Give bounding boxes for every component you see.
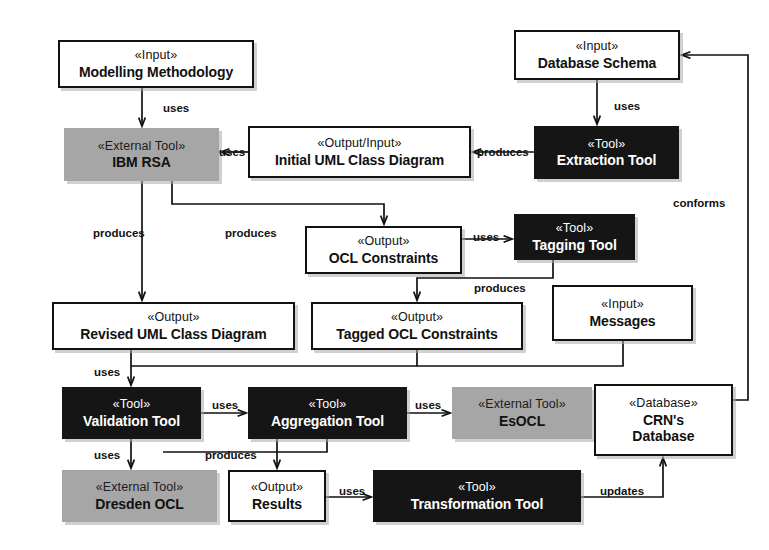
node-stereotype: «Output/Input» (317, 136, 401, 150)
node-stereotype: «External Tool» (478, 397, 565, 411)
edge-label-e-rsa-revised: produces (93, 228, 145, 240)
node-aggregation_tool[interactable]: «Tool»Aggregation Tool (248, 387, 407, 439)
edge-label-e-val-agg: uses (212, 400, 238, 412)
node-stereotype: «Output» (391, 310, 443, 324)
node-results[interactable]: «Output»Results (228, 470, 326, 522)
node-stereotype: «External Tool» (96, 480, 183, 494)
node-label: Dresden OCL (95, 496, 183, 512)
node-revised_uml[interactable]: «Output»Revised UML Class Diagram (52, 302, 295, 350)
node-stereotype: «Tool» (458, 480, 495, 494)
node-ocl_constraints[interactable]: «Output»OCL Constraints (305, 226, 462, 274)
edge-label-e-et-iuml: produces (477, 147, 529, 159)
node-label: Database Schema (538, 55, 656, 71)
node-crns_database[interactable]: «Database»CRN'sDatabase (594, 384, 733, 456)
node-label: IBM RSA (112, 154, 170, 170)
edge-label-e-tag-tagged: produces (474, 283, 526, 295)
edge-label-e-ds-et: uses (614, 101, 640, 113)
node-label: Extraction Tool (557, 152, 656, 168)
edge-label-e-ocl-tag: uses (473, 232, 499, 244)
node-validation_tool[interactable]: «Tool»Validation Tool (62, 387, 201, 439)
edge-label-e-agg-results: produces (205, 450, 257, 462)
node-stereotype: «External Tool» (98, 139, 185, 153)
node-label: EsOCL (499, 413, 545, 429)
node-label: Messages (589, 313, 655, 329)
node-stereotype: «Database» (629, 396, 697, 410)
node-label: OCL Constraints (329, 250, 438, 266)
node-stereotype: «Tool» (556, 221, 593, 235)
node-label: CRN's (643, 412, 684, 428)
node-stereotype: «Input» (576, 39, 618, 53)
node-label: Tagged OCL Constraints (336, 326, 497, 342)
node-label: Validation Tool (83, 413, 180, 429)
edge-taggedocl-to-validation (131, 350, 417, 366)
edge-label-e-val-dresden: uses (94, 450, 120, 462)
node-initial_uml[interactable]: «Output/Input»Initial UML Class Diagram (248, 126, 471, 178)
edge-label-e-crn-ds: conforms (673, 198, 725, 210)
node-stereotype: «Tool» (588, 137, 625, 151)
edge-label-e-iuml-rsa: uses (219, 147, 245, 159)
node-label: Revised UML Class Diagram (80, 326, 266, 342)
edge-label-e-agg-esocl: uses (415, 400, 441, 412)
node-modelling_methodology[interactable]: «Input»Modelling Methodology (58, 40, 254, 88)
edge-label-e-revised-val: uses (94, 367, 120, 379)
node-stereotype: «Input» (135, 48, 177, 62)
diagram-canvas: «Input»Modelling Methodology«Input»Datab… (0, 0, 769, 550)
node-extraction_tool[interactable]: «Tool»Extraction Tool (534, 126, 679, 179)
edge-label-e-mm-rsa: uses (163, 103, 189, 115)
node-label-line2: Database (632, 428, 694, 444)
node-ibm_rsa[interactable]: «External Tool»IBM RSA (64, 128, 219, 181)
node-stereotype: «Output» (251, 480, 303, 494)
node-label: Results (252, 496, 302, 512)
node-label: Initial UML Class Diagram (275, 152, 444, 168)
node-dresden_ocl[interactable]: «External Tool»Dresden OCL (62, 470, 217, 522)
edge-label-e-trans-crn: updates (600, 486, 644, 498)
node-stereotype: «Output» (357, 234, 409, 248)
edge-crn-to-schema (682, 55, 748, 400)
node-label: Tagging Tool (532, 237, 617, 253)
edge-label-e-results-trans: uses (339, 486, 365, 498)
node-esocl[interactable]: «External Tool»EsOCL (452, 387, 592, 439)
node-label: Transformation Tool (411, 496, 543, 512)
node-tagged_ocl[interactable]: «Output»Tagged OCL Constraints (311, 302, 523, 350)
node-label: Modelling Methodology (79, 64, 233, 80)
node-stereotype: «Output» (147, 310, 199, 324)
node-transformation_tool[interactable]: «Tool»Transformation Tool (373, 470, 581, 522)
node-messages[interactable]: «Input»Messages (552, 285, 693, 341)
edge-label-e-rsa-ocl: produces (225, 228, 277, 240)
node-database_schema[interactable]: «Input»Database Schema (514, 30, 680, 80)
node-stereotype: «Input» (601, 297, 643, 311)
edge-rsa-to-ocl (172, 181, 384, 224)
node-label: Aggregation Tool (271, 413, 384, 429)
node-stereotype: «Tool» (113, 397, 150, 411)
node-tagging_tool[interactable]: «Tool»Tagging Tool (514, 214, 635, 260)
node-stereotype: «Tool» (309, 397, 346, 411)
